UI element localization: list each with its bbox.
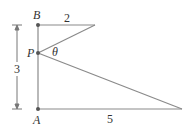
label-B: B xyxy=(33,8,41,22)
label-A: A xyxy=(32,113,41,127)
geometry-diagram: B P A 2 5 3 θ xyxy=(0,0,192,129)
label-angle: θ xyxy=(52,45,58,59)
segment-P-bottom xyxy=(38,53,182,109)
segment-P-top xyxy=(38,25,95,53)
point-P xyxy=(36,51,40,55)
label-top-length: 2 xyxy=(64,11,70,25)
label-vertical-length: 3 xyxy=(14,62,20,76)
label-bottom-length: 5 xyxy=(107,112,113,126)
point-B xyxy=(36,23,40,27)
point-A xyxy=(36,107,40,111)
label-P: P xyxy=(26,46,35,60)
